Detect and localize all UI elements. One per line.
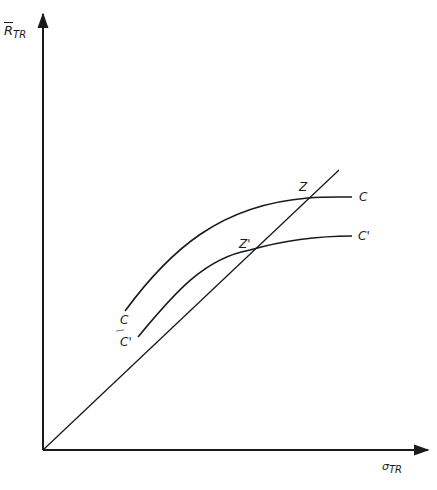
y-axis-label-sub: TR — [13, 29, 26, 40]
y-axis-label-main: R — [4, 23, 13, 38]
c-prime-dash — [116, 330, 124, 331]
curve-c-prime-end-label: C' — [358, 230, 370, 242]
curve-c — [125, 197, 352, 311]
point-z-label: Z — [299, 181, 307, 193]
origin-line — [43, 170, 339, 450]
point-z-prime-label: Z' — [239, 238, 251, 250]
x-axis-label-sub: TR — [389, 464, 402, 475]
curve-c-start-label: C — [120, 314, 128, 326]
curve-c-end-label: C — [359, 191, 367, 203]
curve-c-prime — [138, 236, 352, 337]
curve-c-prime-start-label: C' — [120, 336, 132, 348]
x-axis-label: σTR — [382, 461, 402, 472]
diagram-canvas — [0, 0, 437, 490]
x-axis-label-main: σ — [382, 460, 389, 473]
y-axis-label: RTR — [4, 24, 26, 37]
